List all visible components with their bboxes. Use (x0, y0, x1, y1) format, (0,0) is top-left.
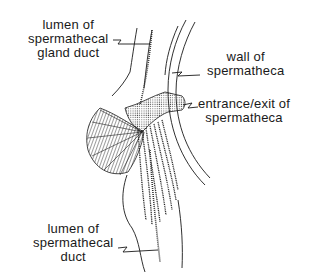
label-line: entrance/exit of (198, 97, 290, 111)
label-line: spermatheca (207, 64, 284, 78)
label-gland-duct-lumen: lumen of spermathecal gland duct (28, 18, 108, 60)
label-spermatheca-wall: wall of spermatheca (207, 50, 284, 78)
label-line: gland duct (28, 46, 108, 60)
label-line: lumen of (33, 222, 113, 236)
spermatheca-diagram: lumen of spermathecal gland duct wall of… (0, 0, 317, 279)
label-line: spermatheca (198, 111, 290, 125)
label-line: duct (33, 250, 113, 264)
label-duct-lumen: lumen of spermathecal duct (33, 222, 113, 264)
label-line: spermathecal (33, 236, 113, 250)
label-line: wall of (207, 50, 284, 64)
label-line: lumen of (28, 18, 108, 32)
label-entrance-exit: entrance/exit of spermatheca (198, 97, 290, 125)
striated-bundles (138, 120, 178, 225)
label-line: spermathecal (28, 32, 108, 46)
